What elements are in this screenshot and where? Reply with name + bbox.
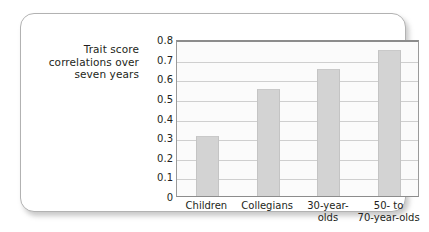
y-tick-label: 0.1 <box>143 172 173 183</box>
y-tick-label: 0.5 <box>143 93 173 104</box>
y-axis-caption: Trait score correlations over seven year… <box>31 43 139 81</box>
bar <box>196 136 219 196</box>
y-tick-label: 0.3 <box>143 133 173 144</box>
x-category-label: 50- to 70-year-olds <box>350 200 427 225</box>
bar <box>257 89 280 196</box>
bar <box>378 50 401 196</box>
x-axis-category-labels: ChildrenCollegians30-year- olds50- to 70… <box>176 200 419 232</box>
bar-chart: 0.80.70.60.50.40.30.20.10 ChildrenColleg… <box>143 40 429 232</box>
plot-area <box>176 40 419 197</box>
y-tick-label: 0.6 <box>143 74 173 85</box>
y-tick-label: 0.2 <box>143 152 173 163</box>
y-axis-tick-labels: 0.80.70.60.50.40.30.20.10 <box>143 40 173 197</box>
y-tick-label: 0.4 <box>143 113 173 124</box>
y-tick-label: 0.7 <box>143 54 173 65</box>
figure-card: Trait score correlations over seven year… <box>20 13 406 212</box>
bar <box>317 69 340 196</box>
bars-group <box>177 42 418 196</box>
y-tick-label: 0.8 <box>143 35 173 46</box>
